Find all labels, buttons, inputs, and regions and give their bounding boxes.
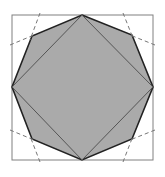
octagon — [12, 15, 153, 160]
octagon-diagram — [0, 0, 165, 177]
